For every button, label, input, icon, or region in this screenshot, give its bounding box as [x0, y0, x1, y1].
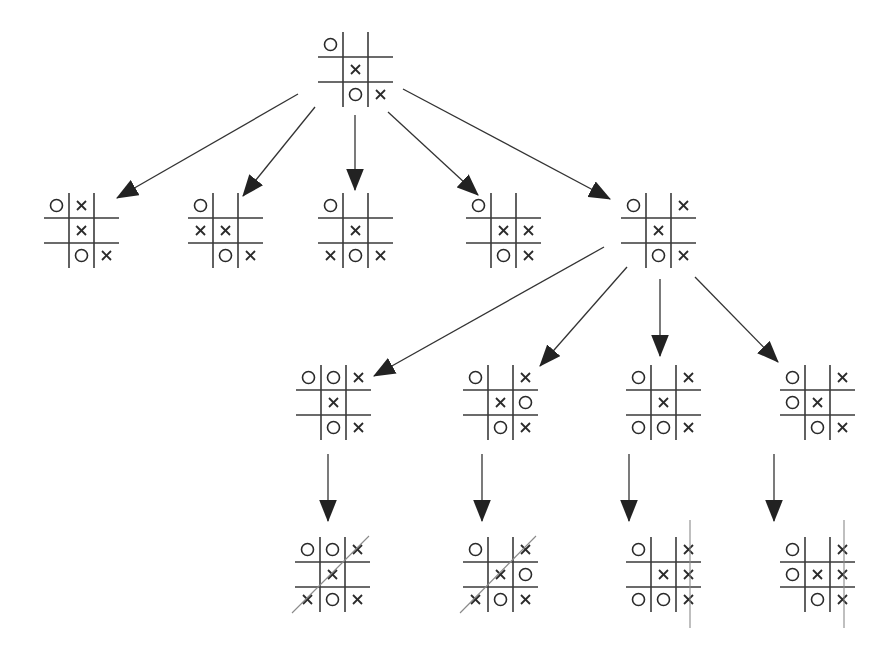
x-mark-icon — [524, 251, 533, 260]
edge-arrow-L1-5-to-L2-4 — [695, 277, 778, 362]
o-mark-icon — [633, 372, 645, 384]
x-mark-icon — [471, 595, 480, 604]
x-mark-icon — [196, 226, 205, 235]
x-mark-icon — [521, 373, 530, 382]
o-mark-icon — [628, 200, 640, 212]
board-L1-2 — [188, 193, 263, 268]
x-mark-icon — [684, 595, 693, 604]
o-mark-icon — [812, 594, 824, 606]
x-mark-icon — [246, 251, 255, 260]
x-mark-icon — [659, 398, 668, 407]
o-mark-icon — [327, 594, 339, 606]
board-L3-3 — [626, 520, 701, 628]
o-mark-icon — [495, 422, 507, 434]
x-mark-icon — [496, 398, 505, 407]
x-mark-icon — [221, 226, 230, 235]
x-mark-icon — [351, 65, 360, 74]
o-mark-icon — [495, 594, 507, 606]
x-mark-icon — [654, 226, 663, 235]
x-mark-icon — [659, 570, 668, 579]
o-mark-icon — [470, 372, 482, 384]
x-mark-icon — [679, 251, 688, 260]
x-mark-icon — [838, 423, 847, 432]
o-mark-icon — [658, 422, 670, 434]
x-mark-icon — [328, 570, 337, 579]
o-mark-icon — [302, 544, 314, 556]
edges-layer — [117, 89, 778, 521]
o-mark-icon — [350, 250, 362, 262]
x-mark-icon — [77, 201, 86, 210]
o-mark-icon — [220, 250, 232, 262]
o-mark-icon — [350, 89, 362, 101]
edge-arrow-root-to-L1-1 — [117, 94, 298, 198]
x-mark-icon — [326, 251, 335, 260]
x-mark-icon — [838, 373, 847, 382]
x-mark-icon — [521, 595, 530, 604]
x-mark-icon — [524, 226, 533, 235]
board-L3-4 — [780, 520, 855, 628]
o-mark-icon — [470, 544, 482, 556]
x-mark-icon — [813, 570, 822, 579]
board-root — [318, 32, 393, 107]
o-mark-icon — [76, 250, 88, 262]
x-mark-icon — [838, 595, 847, 604]
o-mark-icon — [520, 397, 532, 409]
x-mark-icon — [303, 595, 312, 604]
x-mark-icon — [499, 226, 508, 235]
x-mark-icon — [376, 90, 385, 99]
o-mark-icon — [473, 200, 485, 212]
x-mark-icon — [354, 373, 363, 382]
o-mark-icon — [520, 569, 532, 581]
x-mark-icon — [684, 423, 693, 432]
x-mark-icon — [838, 570, 847, 579]
o-mark-icon — [303, 372, 315, 384]
x-mark-icon — [684, 373, 693, 382]
x-mark-icon — [679, 201, 688, 210]
o-mark-icon — [787, 544, 799, 556]
board-L1-1 — [44, 193, 119, 268]
boards-layer — [44, 32, 855, 628]
o-mark-icon — [328, 372, 340, 384]
x-mark-icon — [838, 545, 847, 554]
x-mark-icon — [77, 226, 86, 235]
o-mark-icon — [787, 397, 799, 409]
x-mark-icon — [813, 398, 822, 407]
o-mark-icon — [633, 594, 645, 606]
o-mark-icon — [787, 372, 799, 384]
edge-arrow-L1-5-to-L2-1 — [374, 247, 604, 376]
board-L1-5 — [621, 193, 696, 268]
edge-arrow-root-to-L1-5 — [403, 89, 610, 199]
o-mark-icon — [787, 569, 799, 581]
board-L1-4 — [466, 193, 541, 268]
board-L2-1 — [296, 365, 371, 440]
o-mark-icon — [327, 544, 339, 556]
x-mark-icon — [353, 595, 362, 604]
board-L2-3 — [626, 365, 701, 440]
game-tree-diagram — [0, 0, 890, 657]
o-mark-icon — [195, 200, 207, 212]
o-mark-icon — [325, 39, 337, 51]
o-mark-icon — [325, 200, 337, 212]
board-L3-1 — [292, 536, 370, 613]
x-mark-icon — [684, 545, 693, 554]
x-mark-icon — [102, 251, 111, 260]
board-L1-3 — [318, 193, 393, 268]
edge-arrow-root-to-L1-2 — [243, 107, 315, 196]
winning-line — [292, 536, 369, 613]
x-mark-icon — [329, 398, 338, 407]
edge-arrow-root-to-L1-4 — [388, 112, 478, 195]
x-mark-icon — [684, 570, 693, 579]
o-mark-icon — [51, 200, 63, 212]
x-mark-icon — [353, 545, 362, 554]
o-mark-icon — [633, 422, 645, 434]
x-mark-icon — [521, 423, 530, 432]
edge-arrow-L1-5-to-L2-2 — [540, 267, 627, 366]
o-mark-icon — [658, 594, 670, 606]
board-L2-4 — [780, 365, 855, 440]
o-mark-icon — [633, 544, 645, 556]
x-mark-icon — [376, 251, 385, 260]
x-mark-icon — [351, 226, 360, 235]
o-mark-icon — [498, 250, 510, 262]
o-mark-icon — [328, 422, 340, 434]
o-mark-icon — [653, 250, 665, 262]
